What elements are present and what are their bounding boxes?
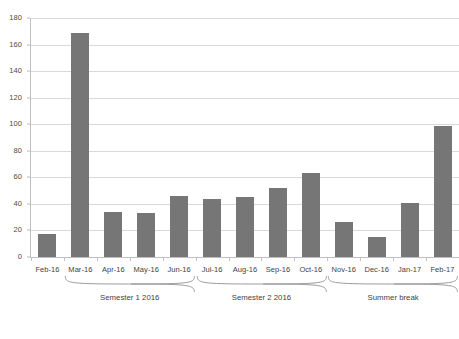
bar xyxy=(236,197,254,257)
x-axis-tick xyxy=(426,257,427,261)
bar-slot xyxy=(130,18,163,257)
x-axis-tick xyxy=(261,257,262,261)
bar-chart: 020406080100120140160180 Feb-16Mar-16Apr… xyxy=(0,0,459,339)
bar-slot xyxy=(360,18,393,257)
x-axis-ticks xyxy=(31,257,459,261)
bar xyxy=(104,212,122,257)
group-label: Semester 1 2016 xyxy=(64,292,196,304)
group-bracket xyxy=(196,276,328,292)
x-axis-tick xyxy=(196,257,197,261)
y-axis-tick xyxy=(27,257,30,258)
bar xyxy=(170,196,188,257)
bar xyxy=(368,237,386,257)
bar xyxy=(302,173,320,257)
y-axis-tick-label: 20 xyxy=(13,227,22,235)
group-annotations: Semester 1 2016Semester 2 2016Summer bre… xyxy=(0,276,459,316)
y-axis-tick xyxy=(27,97,30,98)
x-axis-tick xyxy=(229,257,230,261)
x-axis-tick xyxy=(163,257,164,261)
bar xyxy=(269,188,287,257)
bar xyxy=(38,234,56,257)
group-label: Semester 2 2016 xyxy=(196,292,328,304)
y-axis-tick xyxy=(27,230,30,231)
bar-slot xyxy=(31,18,64,257)
group-label: Summer break xyxy=(327,292,459,304)
bar-slot xyxy=(97,18,130,257)
bar xyxy=(71,33,89,257)
plot-area: 020406080100120140160180 Feb-16Mar-16Apr… xyxy=(0,0,459,275)
y-axis-tick-label: 0 xyxy=(18,253,22,261)
x-axis-tick xyxy=(294,257,295,261)
y-axis-tick-label: 140 xyxy=(9,67,22,75)
y-axis-tick xyxy=(27,124,30,125)
bar-slot xyxy=(261,18,294,257)
bar xyxy=(401,203,419,257)
y-axis-tick xyxy=(27,203,30,204)
x-axis-tick xyxy=(360,257,361,261)
y-axis-tick xyxy=(27,44,30,45)
y-axis-tick-label: 100 xyxy=(9,120,22,128)
bar-slot xyxy=(196,18,229,257)
y-axis-tick-label: 160 xyxy=(9,41,22,49)
bar xyxy=(203,199,221,257)
bar xyxy=(137,213,155,257)
bar-slot xyxy=(229,18,262,257)
bar-slot xyxy=(64,18,97,257)
bar-slot xyxy=(426,18,459,257)
bar xyxy=(434,126,452,257)
x-axis-tick xyxy=(64,257,65,261)
x-axis-tick xyxy=(97,257,98,261)
y-axis-tick-label: 60 xyxy=(13,174,22,182)
bar-slot xyxy=(327,18,360,257)
y-axis-tick-label: 40 xyxy=(13,200,22,208)
y-axis-labels: 020406080100120140160180 xyxy=(0,0,26,275)
x-axis-tick xyxy=(327,257,328,261)
x-axis-tick xyxy=(31,257,32,261)
bar-slot xyxy=(393,18,426,257)
bar-slot xyxy=(163,18,196,257)
y-axis-tick xyxy=(27,71,30,72)
y-axis-tick xyxy=(27,150,30,151)
y-axis-tick-label: 120 xyxy=(9,94,22,102)
y-axis-tick xyxy=(27,18,30,19)
x-axis-tick xyxy=(130,257,131,261)
group-bracket xyxy=(64,276,196,292)
bar-slot xyxy=(294,18,327,257)
y-axis-tick-label: 180 xyxy=(9,14,22,22)
bar-series xyxy=(31,18,459,257)
bar xyxy=(335,222,353,257)
x-axis-tick xyxy=(393,257,394,261)
group-bracket xyxy=(327,276,459,292)
y-axis-tick xyxy=(27,177,30,178)
y-axis-tick-label: 80 xyxy=(13,147,22,155)
